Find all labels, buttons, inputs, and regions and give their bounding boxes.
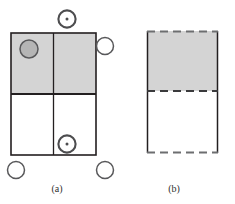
filled-circle-marker <box>20 40 38 58</box>
panel-a <box>8 10 114 178</box>
dot-circle-marker-inner <box>58 135 75 152</box>
panel-b <box>147 31 218 153</box>
dot-circle-marker-top <box>58 10 75 27</box>
panel-b-shaded-upper-half <box>147 31 218 91</box>
open-circle-marker-bottom-right <box>97 162 114 179</box>
panel-b-plain-lower-half <box>147 91 218 153</box>
panel-a-caption: (a) <box>0 184 114 194</box>
open-circle-marker-right <box>97 38 114 55</box>
figure-diagram <box>0 0 235 204</box>
panel-b-caption: (b) <box>124 184 224 194</box>
open-circle-marker-bottom-left <box>8 162 25 179</box>
